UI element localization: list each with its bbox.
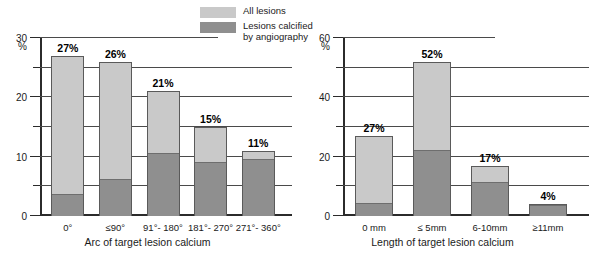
bar-value-label: 27% (363, 122, 384, 134)
bar-segment-calcified (195, 162, 226, 216)
x-axis-category-label: 6-10mm (473, 222, 508, 233)
bar-length-of-target-lesion-calcium-1: 52% (413, 62, 451, 216)
plot-area-length: 0204060 0 mm27%≤ 5mm52%6-10mm17%≥11mm4% … (343, 38, 575, 216)
bar-segment-calcified (414, 150, 450, 216)
bars-length: 0 mm27%≤ 5mm52%6-10mm17%≥11mm4% (343, 38, 575, 216)
bar-arc-of-target-lesion-calcium-4: 11% (242, 151, 275, 216)
bar-value-label: 11% (248, 137, 268, 149)
y-axis-tick (333, 156, 343, 157)
plot-area-arc: 0102030 0°27%≤90°26%91°- 180°21%181°- 27… (40, 38, 278, 216)
legend-label-all-lesions: All lesions (243, 6, 286, 17)
y-axis-tick (30, 37, 40, 38)
y-axis-tick (333, 96, 343, 97)
figure-footnote-cropped (0, 256, 590, 262)
y-axis-tick (30, 215, 40, 216)
x-axis-category-label: 181°- 270° (188, 222, 233, 233)
bar-length-of-target-lesion-calcium-3: 4% (529, 204, 567, 216)
y-axis-tick (33, 67, 40, 68)
x-axis-category-label: ≤ 5mm (418, 222, 447, 233)
chart-panel-arc: 0102030 0°27%≤90°26%91°- 180°21%181°- 27… (0, 24, 295, 262)
x-axis-category-label: 91°- 180° (143, 222, 183, 233)
bar-value-label: 27% (57, 42, 78, 54)
bar-value-label: 52% (421, 48, 442, 60)
bar-length-of-target-lesion-calcium-0: 27% (355, 136, 393, 216)
y-axis-tick-label: 40 (319, 92, 330, 103)
bar-value-label: 17% (479, 152, 500, 164)
y-axis-tick-label: 20 (16, 92, 27, 103)
x-axis-category-label: 271°- 360° (236, 222, 281, 233)
bar-segment-calcified (243, 159, 274, 216)
bar-segment-calcified (356, 203, 392, 216)
legend-swatch-all-lesions-icon (200, 7, 236, 18)
bar-arc-of-target-lesion-calcium-3: 15% (194, 127, 227, 216)
y-axis-tick (33, 126, 40, 127)
x-axis-category-label: 0° (63, 222, 72, 233)
y-axis-tick (333, 215, 343, 216)
x-axis-category-label: ≤90° (106, 222, 126, 233)
y-axis-unit-length: % (321, 41, 330, 52)
bar-segment-calcified (472, 182, 508, 216)
y-axis-tick (336, 126, 343, 127)
bar-arc-of-target-lesion-calcium-2: 21% (147, 91, 180, 216)
bar-arc-of-target-lesion-calcium-0: 27% (51, 56, 84, 216)
x-axis-title-length: Length of target lesion calcium (295, 236, 590, 248)
bar-segment-calcified (530, 205, 566, 216)
y-axis-tick (336, 185, 343, 186)
bar-segment-calcified (100, 179, 131, 216)
y-axis-tick-label: 0 (324, 211, 330, 222)
y-axis-unit-arc: % (18, 41, 27, 52)
figure-root: All lesions Lesions calcified by angiogr… (0, 0, 590, 262)
bars-arc: 0°27%≤90°26%91°- 180°21%181°- 270°15%271… (40, 38, 278, 216)
bar-value-label: 26% (105, 48, 126, 60)
bar-segment-calcified (52, 194, 83, 216)
y-axis-tick-label: 20 (319, 152, 330, 163)
bar-value-label: 4% (540, 190, 555, 202)
chart-panel-length: 0204060 0 mm27%≤ 5mm52%6-10mm17%≥11mm4% … (295, 24, 590, 262)
x-axis-category-label: ≥11mm (533, 222, 564, 233)
x-axis-title-arc: Arc of target lesion calcium (0, 236, 295, 248)
legend-item-all-lesions: All lesions (200, 6, 350, 18)
y-axis-tick (33, 185, 40, 186)
y-axis-tick-label: 10 (16, 152, 27, 163)
bar-arc-of-target-lesion-calcium-1: 26% (99, 62, 132, 216)
y-axis-tick (30, 156, 40, 157)
bar-value-label: 21% (152, 77, 173, 89)
bar-segment-calcified (148, 153, 179, 216)
y-axis-tick (333, 37, 343, 38)
y-axis-tick (30, 96, 40, 97)
x-axis-category-label: 0 mm (362, 222, 386, 233)
y-axis-tick-label: 0 (21, 211, 27, 222)
bar-length-of-target-lesion-calcium-2: 17% (471, 166, 509, 216)
bar-value-label: 15% (200, 113, 221, 125)
y-axis-tick (336, 67, 343, 68)
